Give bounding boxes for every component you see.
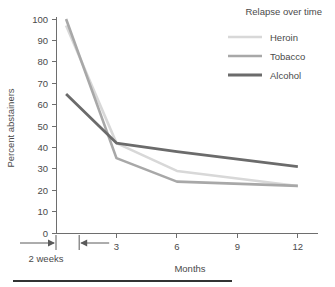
two-weeks-right-arrowhead (80, 239, 87, 246)
y-tick-label: 10 (37, 206, 48, 217)
y-tick-label: 0 (43, 228, 48, 239)
legend-label-heroin: Heroin (270, 32, 298, 43)
y-tick-label: 100 (32, 14, 48, 25)
y-tick-label: 50 (37, 121, 48, 132)
y-tick-label: 40 (37, 142, 48, 153)
y-tick-label: 30 (37, 163, 48, 174)
x-tick-label: 3 (114, 241, 119, 252)
series-line-tobacco (66, 19, 298, 186)
legend: Relapse over timeHeroinTobaccoAlcohol (228, 6, 322, 81)
y-tick-label: 60 (37, 99, 48, 110)
two-weeks-left-arrowhead (48, 239, 55, 246)
y-axis-title: Percent abstainers (5, 88, 16, 167)
x-tick-label: 12 (293, 241, 304, 252)
two-weeks-annotation: 2 weeks (20, 235, 109, 264)
legend-label-tobacco: Tobacco (270, 51, 305, 62)
y-tick-label: 70 (37, 78, 48, 89)
figure-container: 0102030405060708090100 36912 Relapse ove… (0, 0, 335, 287)
two-weeks-label: 2 weeks (29, 253, 64, 264)
legend-title: Relapse over time (245, 6, 322, 17)
y-tick-label: 20 (37, 185, 48, 196)
y-axis: 0102030405060708090100 (32, 14, 56, 239)
legend-label-alcohol: Alcohol (270, 70, 301, 81)
relapse-over-time-line-chart: 0102030405060708090100 36912 Relapse ove… (0, 0, 335, 287)
y-tick-label: 90 (37, 35, 48, 46)
x-tick-label: 6 (174, 241, 179, 252)
x-axis-title: Months (174, 263, 205, 274)
series-lines (66, 19, 298, 186)
x-tick-label: 9 (235, 241, 240, 252)
y-tick-label: 80 (37, 56, 48, 67)
